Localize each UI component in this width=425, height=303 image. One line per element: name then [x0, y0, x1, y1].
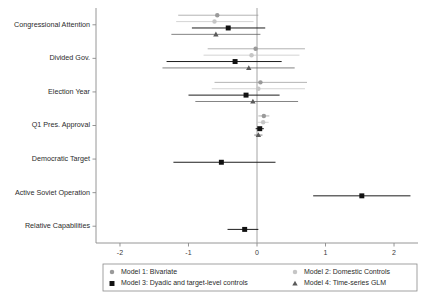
marker-square: [244, 93, 249, 98]
marker-square: [242, 227, 247, 232]
marker-triangle: [292, 281, 297, 286]
marker-square: [110, 281, 115, 286]
y-axis-label: Q1 Pres. Approval: [32, 120, 91, 129]
chart-canvas: Congressional AttentionDivided Gov.Elect…: [0, 0, 425, 303]
marker-circle: [261, 120, 265, 124]
marker-circle: [110, 270, 114, 274]
marker-square: [359, 193, 364, 198]
series-2: [176, 19, 305, 124]
legend-entry-label: Model 3: Dyadic and target-level control…: [121, 279, 248, 287]
x-axis-tick-label: 2: [392, 249, 396, 256]
marker-square: [226, 25, 231, 30]
legend-entry-label: Model 4: Time-series GLM: [304, 279, 386, 286]
marker-square: [219, 160, 224, 165]
marker-circle: [249, 53, 253, 57]
marker-square: [257, 126, 262, 131]
legend: Model 1: BivariateModel 2: Domestic Cont…: [103, 264, 417, 291]
y-axis-label: Congressional Attention: [14, 20, 90, 29]
series-3: [167, 25, 411, 231]
marker-circle: [253, 47, 257, 51]
coefficient-plot: Congressional AttentionDivided Gov.Elect…: [0, 0, 425, 303]
marker-triangle: [213, 32, 218, 37]
y-axis-label: Divided Gov.: [49, 53, 90, 62]
x-axis-tick-label: -2: [117, 249, 123, 256]
y-axis-label: Election Year: [48, 87, 91, 96]
series-1: [178, 13, 307, 118]
y-axis-label: Active Soviet Operation: [15, 188, 90, 197]
marker-triangle: [256, 132, 261, 137]
legend-entry-label: Model 2: Domestic Controls: [304, 268, 390, 275]
x-axis-tick-label: 0: [255, 249, 259, 256]
x-axis-tick-label: -1: [185, 249, 191, 256]
marker-triangle: [250, 99, 255, 104]
y-axis-label: Democratic Target: [32, 154, 90, 163]
marker-circle: [262, 114, 266, 118]
marker-circle: [293, 270, 297, 274]
y-axis-label: Relative Capabilities: [25, 221, 91, 230]
marker-triangle: [246, 65, 251, 70]
marker-circle: [258, 80, 262, 84]
marker-circle: [256, 87, 260, 91]
series-4: [162, 32, 298, 138]
marker-circle: [212, 19, 216, 23]
legend-entry-label: Model 1: Bivariate: [121, 268, 177, 275]
x-axis-tick-label: 1: [324, 249, 328, 256]
marker-circle: [215, 13, 219, 17]
marker-square: [233, 59, 238, 64]
